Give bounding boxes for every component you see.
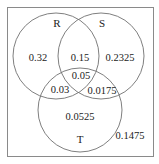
region-s-and-t: 0.0175 [88,85,117,96]
venn-diagram: R S T 0.32 0.15 0.2325 0.05 0.03 0.0175 … [0,0,159,164]
region-s-only: 0.2325 [106,52,135,63]
region-r-s-t: 0.05 [72,70,90,81]
set-label-r: R [53,17,61,29]
set-label-t: T [77,133,84,145]
set-label-s: S [99,17,105,29]
region-r-only: 0.32 [29,52,47,63]
region-r-and-t: 0.03 [51,84,69,95]
region-t-only: 0.0525 [66,111,95,122]
region-r-and-s: 0.15 [71,52,89,63]
region-outside: 0.1475 [116,130,145,141]
